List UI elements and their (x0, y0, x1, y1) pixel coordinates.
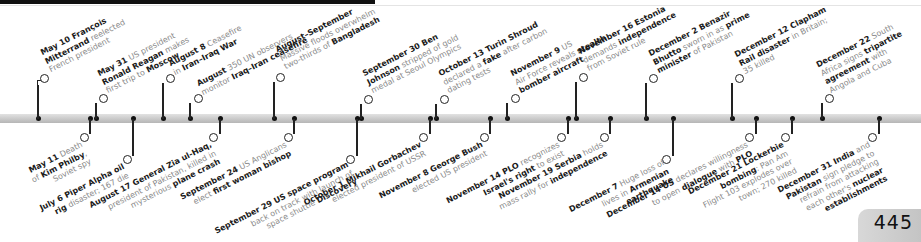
marker-ring-icon (735, 74, 744, 83)
marker-ring-icon (825, 94, 834, 103)
marker-ring-icon (364, 95, 373, 104)
marker-ring-icon (80, 133, 89, 142)
marker-ring-icon (649, 74, 658, 83)
marker-ring-icon (166, 74, 175, 83)
marker-ring-icon (284, 133, 293, 142)
marker-ring-icon (194, 94, 203, 103)
timeline-axis (0, 114, 921, 123)
marker-ring-icon (781, 133, 790, 142)
marker-ring-icon (40, 74, 49, 83)
header-rule (0, 5, 921, 6)
marker-ring-icon (511, 94, 520, 103)
page-number: 445 (874, 211, 913, 233)
marker-ring-icon (209, 133, 218, 142)
marker-ring-icon (440, 95, 449, 104)
marker-ring-icon (600, 133, 609, 142)
marker-ring-icon (480, 133, 489, 142)
marker-ring-icon (745, 133, 754, 142)
header-bar (0, 0, 375, 4)
marker-ring-icon (579, 73, 588, 82)
marker-ring-icon (99, 94, 108, 103)
marker-ring-icon (868, 133, 877, 142)
marker-ring-icon (276, 73, 285, 82)
marker-ring-icon (419, 133, 428, 142)
marker-ring-icon (557, 133, 566, 142)
marker-ring-icon (123, 155, 132, 164)
